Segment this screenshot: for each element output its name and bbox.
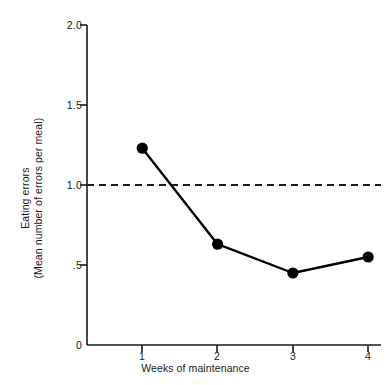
figure-container: Eating errors (Mean number of errors per…: [0, 0, 391, 385]
data-point-week-3: [287, 267, 298, 278]
data-line-eating-errors: [142, 148, 368, 273]
data-point-week-4: [363, 251, 374, 262]
data-point-week-2: [212, 239, 223, 250]
page-caption-strip: [0, 377, 391, 385]
data-point-week-1: [137, 143, 148, 154]
chart-plot: [0, 0, 391, 385]
